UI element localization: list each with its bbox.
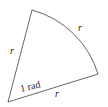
angle-label: 1 rad xyxy=(19,79,41,94)
arc-length-label: r xyxy=(78,22,82,33)
sector-diagram: r r r 1 rad xyxy=(0,0,108,107)
bottom-radius-label: r xyxy=(55,88,59,99)
left-radius-label: r xyxy=(10,45,14,56)
